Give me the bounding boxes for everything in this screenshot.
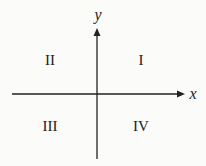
x-axis-label: x <box>189 86 196 102</box>
x-axis-arrow-icon <box>177 91 185 98</box>
y-axis-label: y <box>94 7 101 23</box>
quadrant-label-II: II <box>45 53 55 68</box>
quadrant-label-I: I <box>139 53 144 68</box>
quadrant-label-III: III <box>43 119 58 134</box>
y-axis-arrow-icon <box>94 28 101 36</box>
coordinate-axes <box>0 0 206 166</box>
quadrant-label-IV: IV <box>133 119 149 134</box>
